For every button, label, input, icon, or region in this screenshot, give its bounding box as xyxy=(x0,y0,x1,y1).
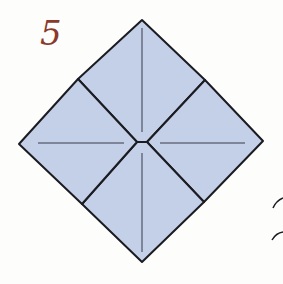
arrow-partial-2 xyxy=(272,232,283,240)
origami-diagram: 5 xyxy=(0,0,283,284)
folded-model xyxy=(0,0,283,284)
arrow-partial xyxy=(273,198,283,208)
